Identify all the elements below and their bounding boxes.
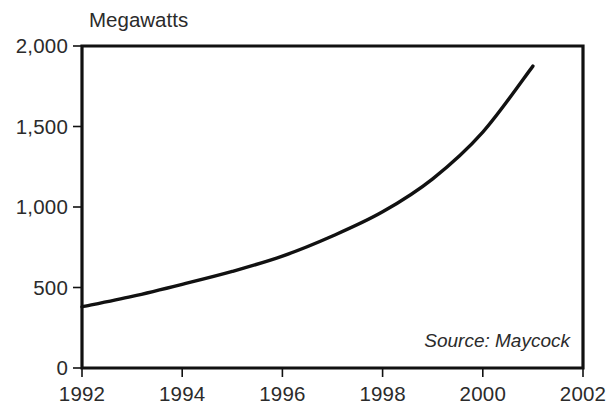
y-axis-title: Megawatts	[89, 8, 188, 31]
x-tick-label: 2002	[560, 382, 606, 405]
y-tick-label: 2,000	[16, 34, 68, 57]
y-tick-label: 1,500	[16, 115, 68, 138]
x-tick-label: 1996	[259, 382, 305, 405]
x-tick-label: 1994	[159, 382, 205, 405]
x-tick-label: 2000	[460, 382, 506, 405]
source-annotation: Source: Maycock	[424, 330, 571, 351]
x-tick-label: 1998	[359, 382, 405, 405]
chart-background	[0, 0, 614, 413]
y-tick-label: 500	[33, 276, 68, 299]
chart-container: 05001,0001,5002,000 19921994199619982000…	[0, 0, 614, 413]
y-tick-label: 1,000	[16, 195, 68, 218]
x-tick-label: 1992	[59, 382, 105, 405]
line-chart: 05001,0001,5002,000 19921994199619982000…	[0, 0, 614, 413]
y-tick-label: 0	[56, 356, 68, 379]
